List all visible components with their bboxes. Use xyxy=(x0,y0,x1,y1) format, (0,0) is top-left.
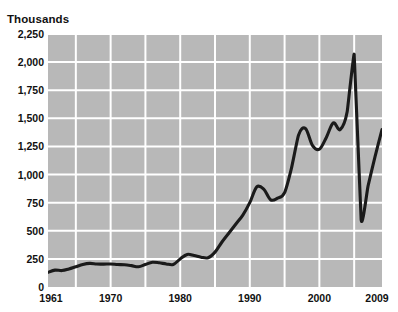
x-tick-label-2000: 2000 xyxy=(308,292,331,304)
vertical-gridlines xyxy=(76,34,354,287)
x-tick-label-2009: 2009 xyxy=(365,292,388,304)
plot-area xyxy=(48,34,382,287)
x-tick-label-1990: 1990 xyxy=(238,292,261,304)
chart-container: Thousands 02505007501,0001,2501,5001,750… xyxy=(0,0,398,312)
x-tick-label-1970: 1970 xyxy=(99,292,122,304)
x-tick-label-1980: 1980 xyxy=(169,292,192,304)
line-chart-svg xyxy=(48,34,382,287)
x-tick-label-1961: 1961 xyxy=(39,292,62,304)
